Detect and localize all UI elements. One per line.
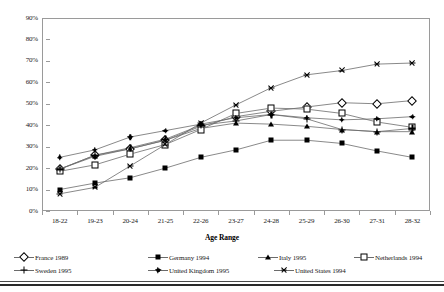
data-point (307, 126, 313, 131)
legend-label: France 1989 (34, 254, 68, 262)
data-point (236, 105, 243, 112)
x-tick-mark (430, 211, 431, 215)
cross-marker-icon (374, 61, 381, 68)
x-axis-title: Age Range (0, 233, 444, 242)
square-filled-marker-icon (304, 138, 309, 143)
x-tick-label: 18-22 (40, 217, 80, 225)
data-point (412, 157, 417, 162)
starburst-marker-icon (409, 125, 416, 132)
square-filled-marker-icon (410, 155, 415, 160)
y-tick-label: 0% (10, 208, 38, 215)
x-tick-mark (183, 211, 184, 215)
data-point (60, 157, 66, 163)
data-point (412, 63, 419, 70)
y-tick-label: 10% (10, 186, 38, 193)
x-tick-mark (113, 211, 114, 215)
y-tick-mark (46, 104, 50, 105)
x-tick-mark (359, 211, 360, 215)
x-axis: 18-2219-2320-2421-2522-2623-2724-2825-29… (42, 215, 430, 227)
diamond-open-marker-icon (19, 252, 29, 262)
starburst-marker-icon (127, 144, 134, 151)
data-point (342, 143, 347, 148)
y-tick-label: 30% (10, 143, 38, 150)
legend-item[interactable]: Netherlands 1994 (354, 252, 422, 263)
x-tick-mark (148, 211, 149, 215)
data-point (95, 165, 102, 172)
legend-marker (148, 252, 168, 263)
dot-plus-marker-icon (163, 128, 169, 134)
y-tick-label: 40% (10, 122, 38, 129)
legend-item[interactable]: France 1989 (14, 252, 68, 263)
dot-plus-marker-icon (269, 112, 275, 118)
cross-marker-icon (303, 71, 310, 78)
x-tick-mark (77, 211, 78, 215)
y-tick-mark (46, 39, 50, 40)
legend-item[interactable]: Sweden 1995 (14, 265, 71, 276)
data-point (412, 117, 418, 123)
x-tick-label: 23-27 (216, 217, 256, 225)
data-point (271, 124, 277, 129)
plot-canvas (42, 18, 430, 211)
y-tick-mark (46, 125, 50, 126)
legend-label: Netherlands 1994 (374, 254, 422, 262)
x-tick-mark (324, 211, 325, 215)
square-filled-marker-icon (163, 166, 168, 171)
triangle-filled-marker-icon (265, 255, 271, 260)
cross-marker-icon (162, 141, 169, 148)
square-filled-marker-icon (198, 155, 203, 160)
data-point (130, 154, 137, 161)
divider-rule-bottom (0, 284, 444, 286)
data-point (307, 75, 314, 82)
legend-marker (14, 265, 34, 276)
data-point (377, 64, 384, 71)
data-point (130, 166, 137, 173)
cross-marker-icon (127, 162, 134, 169)
data-point (307, 140, 312, 145)
legend-marker (258, 252, 278, 263)
dot-plus-marker-icon (155, 267, 161, 273)
legend-item[interactable]: Germany 1994 (148, 252, 209, 263)
dot-plus-marker-icon (374, 116, 380, 122)
cross-marker-icon (56, 190, 63, 197)
square-filled-marker-icon (339, 141, 344, 146)
x-tick-mark (254, 211, 255, 215)
dot-plus-marker-icon (339, 117, 345, 123)
data-point (165, 168, 170, 173)
data-point (60, 194, 67, 201)
dot-plus-marker-icon (304, 115, 310, 121)
y-tick-label: 80% (10, 36, 38, 43)
x-tick-mark (395, 211, 396, 215)
legend-marker (14, 252, 34, 263)
cross-marker-icon (338, 67, 345, 74)
legend-label: Italy 1995 (278, 254, 306, 262)
legend-marker (148, 265, 168, 276)
legend-item[interactable]: Italy 1995 (258, 252, 306, 263)
x-tick-mark (218, 211, 219, 215)
dot-plus-marker-icon (233, 115, 239, 121)
data-point (271, 115, 277, 121)
cross-marker-icon (409, 60, 416, 67)
y-tick-label: 20% (10, 165, 38, 172)
x-tick-label: 28-32 (392, 217, 432, 225)
data-point (377, 104, 384, 111)
cross-marker-icon (233, 101, 240, 108)
dot-plus-marker-icon (127, 134, 133, 140)
legend-item[interactable]: United States 1994 (274, 265, 346, 276)
y-tick-label: 50% (10, 100, 38, 107)
data-point (271, 140, 276, 145)
y-tick-mark (46, 61, 50, 62)
square-filled-marker-icon (269, 138, 274, 143)
data-point (165, 145, 172, 152)
triangle-filled-marker-icon (268, 122, 274, 127)
data-point (271, 88, 278, 95)
square-open-marker-icon (303, 106, 310, 113)
legend-label: Germany 1994 (168, 254, 209, 262)
legend-item[interactable]: United Kingdom 1995 (148, 265, 229, 276)
dot-plus-marker-icon (92, 147, 98, 153)
data-point (95, 150, 101, 156)
square-filled-marker-icon (128, 175, 133, 180)
dot-plus-marker-icon (410, 114, 416, 120)
data-point (307, 118, 313, 124)
data-point (60, 169, 67, 176)
starburst-marker-icon (374, 128, 381, 135)
